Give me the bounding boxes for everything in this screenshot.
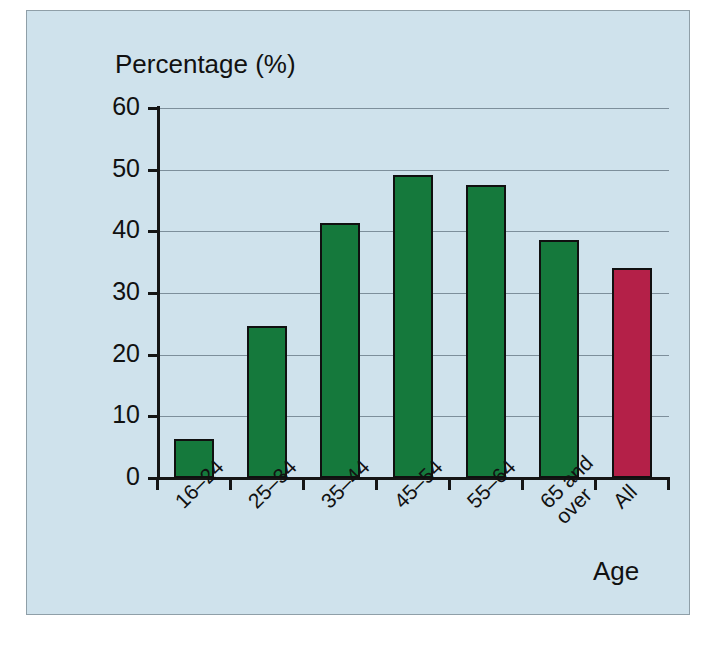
x-tick-label-all: All: [609, 480, 641, 512]
chart-figure: Percentage (%) 60 50 40 30 20 10 0: [26, 10, 690, 615]
x-tick-3: [375, 479, 378, 490]
x-tick-7: [667, 479, 670, 490]
y-tick-label-40: 40: [100, 217, 140, 242]
bar-45-54[interactable]: [393, 175, 433, 478]
bar-series: [157, 108, 669, 478]
bar-25-34[interactable]: [247, 326, 287, 478]
x-tick-0: [156, 479, 159, 490]
y-axis-title: Percentage (%): [115, 49, 296, 80]
y-tick-labels: 60 50 40 30 20 10 0: [95, 11, 140, 616]
bar-65-and-over[interactable]: [539, 240, 579, 478]
x-tick-5: [521, 479, 524, 490]
y-tick-label-60: 60: [100, 94, 140, 119]
y-tick-label-30: 30: [100, 279, 140, 304]
x-tick-1: [229, 479, 232, 490]
bar-55-64[interactable]: [466, 185, 506, 478]
y-tick-label-0: 0: [100, 464, 140, 489]
y-tick-label-50: 50: [100, 156, 140, 181]
x-tick-2: [302, 479, 305, 490]
y-tick-label-10: 10: [100, 402, 140, 427]
x-axis-title: Age: [593, 556, 639, 587]
y-tick-label-20: 20: [100, 341, 140, 366]
bar-all[interactable]: [612, 268, 652, 478]
x-tick-4: [448, 479, 451, 490]
bar-35-44[interactable]: [320, 223, 360, 478]
